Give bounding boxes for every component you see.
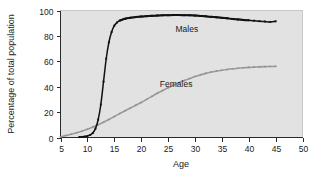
y-tick-label: 40 [44,83,54,93]
series-annotation-females: Females [160,79,193,89]
x-tick-label: 20 [137,144,147,154]
x-axis-title: Age [173,159,189,169]
y-axis-ticks [57,12,61,139]
data-point-females [151,96,153,98]
data-point-females [162,90,164,92]
x-tick-label: 40 [245,144,255,154]
data-point-males [100,104,102,106]
data-point-females [119,113,121,115]
x-axis-ticks [62,138,304,142]
y-tick-label: 20 [44,108,54,118]
data-point-males [81,136,83,138]
y-axis-title: Percentage of total population [6,14,16,134]
data-point-females [92,126,94,128]
data-point-males [111,31,113,33]
data-point-males [275,20,277,22]
data-point-females [140,102,142,104]
data-point-females [259,66,261,68]
data-point-males [92,132,94,134]
data-point-females [264,66,266,68]
data-point-males [95,128,97,130]
data-point-females [226,69,228,71]
x-tick-label: 50 [299,144,309,154]
data-point-males [116,22,118,24]
y-tick-label: 80 [44,32,54,42]
data-point-females [221,69,223,71]
data-point-females [248,67,250,69]
chart-figure: 5101520253035404550 020406080100 MalesFe… [0,0,319,173]
data-point-males [269,21,271,23]
data-point-females [200,74,202,76]
data-point-females [65,135,67,137]
data-point-females [146,99,148,101]
data-point-females [108,119,110,121]
x-tick-label: 45 [272,144,282,154]
data-point-females [216,70,218,72]
data-point-females [81,130,83,132]
line-chart: 5101520253035404550 020406080100 MalesFe… [0,0,319,173]
data-point-females [71,133,73,135]
data-point-males [259,20,261,22]
data-point-males [113,25,115,27]
data-point-females [205,73,207,75]
x-tick-label: 35 [218,144,228,154]
data-point-females [87,129,89,131]
data-point-females [157,93,159,95]
data-point-males [97,119,99,121]
data-point-females [275,66,277,68]
data-point-males [84,136,86,138]
y-tick-label: 100 [39,7,53,17]
data-point-females [232,68,234,70]
data-point-females [269,66,271,68]
data-point-males [264,21,266,23]
data-point-females [76,132,78,134]
x-axis-tick-labels: 5101520253035404550 [59,144,308,154]
data-point-males [108,41,110,43]
data-point-females [130,107,132,109]
data-point-males [89,134,91,136]
data-point-females [253,66,255,68]
x-tick-label: 10 [83,144,93,154]
series-annotation-males: Males [176,24,199,34]
data-point-females [243,67,245,69]
data-point-females [135,104,137,106]
x-tick-label: 25 [164,144,174,154]
y-axis-tick-labels: 020406080100 [39,7,53,144]
data-point-females [237,68,239,70]
data-point-females [124,110,126,112]
data-point-females [60,136,62,138]
data-point-females [194,76,196,78]
data-point-females [103,122,105,124]
x-tick-label: 30 [191,144,201,154]
data-point-females [114,116,116,118]
data-point-males [78,136,80,138]
y-tick-label: 60 [44,57,54,67]
y-tick-label: 0 [49,134,54,144]
data-point-males [86,135,88,137]
x-tick-label: 15 [110,144,120,154]
x-tick-label: 5 [59,144,64,154]
data-point-males [105,58,107,60]
data-point-females [210,71,212,73]
data-point-males [103,81,105,83]
data-point-males [253,20,255,22]
